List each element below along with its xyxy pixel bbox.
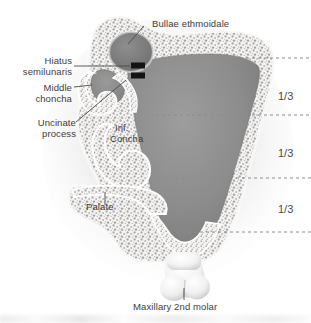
molar-neck	[167, 252, 201, 270]
label-uncinate-process-line2: process	[4, 128, 76, 139]
thirds-label-3: 1/3	[278, 203, 293, 215]
label-inf-concha-line2: Concha	[110, 133, 143, 144]
thirds-label-2: 1/3	[278, 147, 293, 159]
label-hiatus-semilunaris-line1: Hiatus	[8, 55, 72, 66]
molar-cusp-distal	[184, 275, 210, 300]
label-bullae-ethmoidale: Bullae ethmoidale	[152, 18, 229, 29]
label-middle-chonchа-line1: Middle	[8, 82, 72, 93]
cropped-caption-strip	[0, 315, 311, 323]
label-inf-concha-line1: Inf.	[115, 122, 129, 133]
label-uncinate-process-line1: Uncinate	[4, 117, 76, 128]
label-palate: Palate	[86, 201, 114, 212]
anatomical-diagram	[0, 0, 311, 323]
label-hiatus-semilunaris-line2: semilunaris	[0, 66, 72, 77]
thirds-label-1: 1/3	[278, 90, 293, 102]
label-middle-chonchа-line2: chonchа	[4, 93, 72, 104]
label-maxillary-2nd-molar: Maxillary 2nd molar	[133, 301, 217, 312]
hiatus-semilunaris-marker-lower	[131, 73, 145, 79]
hiatus-semilunaris-marker-upper	[131, 63, 145, 69]
